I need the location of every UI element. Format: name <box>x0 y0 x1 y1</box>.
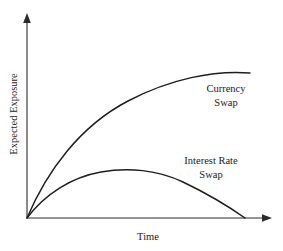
x-axis-title: Time <box>137 231 159 242</box>
chart-canvas: Expected Exposure Time Currency Swap Int… <box>0 0 283 251</box>
y-axis-title: Expected Exposure <box>8 73 19 155</box>
curve-currency-swap <box>27 72 250 218</box>
interest-rate-swap-label-line1: Interest Rate <box>184 155 238 166</box>
chart-container: Expected Exposure Time Currency Swap Int… <box>0 0 283 251</box>
y-axis-arrow-icon <box>23 13 31 23</box>
currency-swap-label-line1: Currency <box>206 83 246 94</box>
x-axis-arrow-icon <box>262 214 272 222</box>
interest-rate-swap-label-line2: Swap <box>199 169 222 180</box>
currency-swap-label-line2: Swap <box>214 97 237 108</box>
